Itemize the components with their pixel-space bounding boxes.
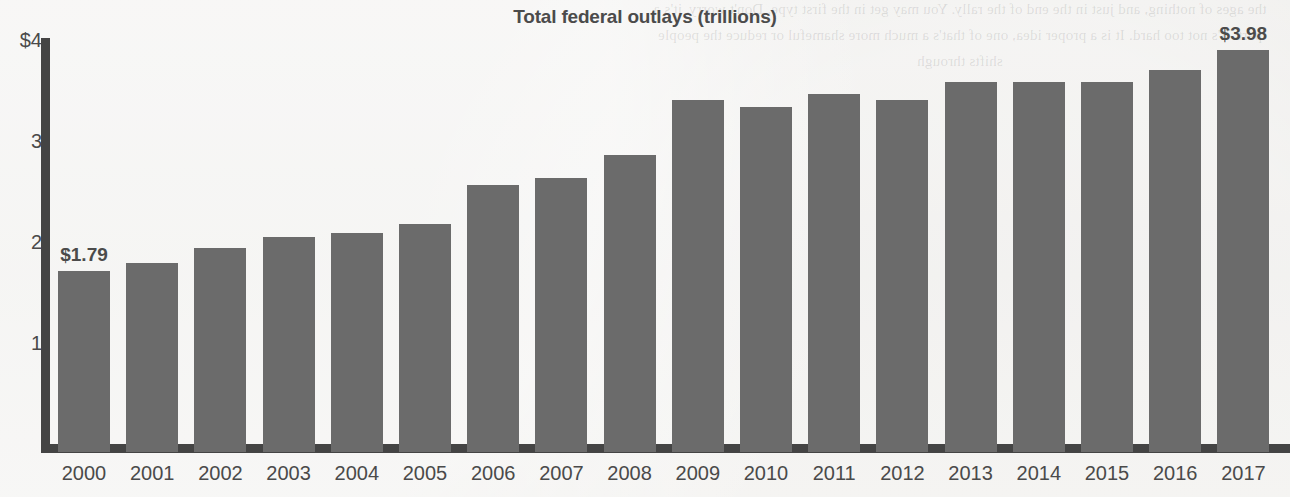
- x-tick-label-2017: 2017: [1208, 462, 1278, 485]
- x-tick-label-2006: 2006: [458, 462, 528, 485]
- bar-rect: [1013, 82, 1065, 452]
- x-tick-label-2013: 2013: [936, 462, 1006, 485]
- bar-value-label-2000: $1.79: [60, 244, 108, 266]
- bar-2003[interactable]: [263, 237, 315, 452]
- bar-2000[interactable]: $1.79: [58, 271, 110, 452]
- bar-series: $1.79$3.98: [58, 0, 1290, 497]
- bar-value-label-2017: $3.98: [1220, 23, 1268, 45]
- x-tick-label-2015: 2015: [1072, 462, 1142, 485]
- x-tick-label-2014: 2014: [1004, 462, 1074, 485]
- bar-2007[interactable]: [535, 178, 587, 452]
- x-tick-label-2007: 2007: [526, 462, 596, 485]
- x-tick-label-2016: 2016: [1140, 462, 1210, 485]
- x-tick-label-2004: 2004: [322, 462, 392, 485]
- bar-2011[interactable]: [808, 94, 860, 452]
- bar-2016[interactable]: [1149, 70, 1201, 452]
- bar-rect: [467, 185, 519, 452]
- x-tick-label-2011: 2011: [799, 462, 869, 485]
- bar-rect: [126, 263, 178, 452]
- x-tick-label-2000: 2000: [49, 462, 119, 485]
- bar-2010[interactable]: [740, 107, 792, 452]
- x-tick-label-2002: 2002: [185, 462, 255, 485]
- y-tick-label-4: $4: [8, 29, 42, 52]
- y-tick-label-2: 2: [8, 231, 42, 254]
- bar-2012[interactable]: [876, 100, 928, 452]
- x-tick-label-2003: 2003: [254, 462, 324, 485]
- bar-2001[interactable]: [126, 263, 178, 452]
- bar-rect: [740, 107, 792, 452]
- bar-2013[interactable]: [945, 82, 997, 452]
- bar-2002[interactable]: [194, 248, 246, 452]
- bar-rect: [604, 155, 656, 452]
- y-tick-label-1: 1: [8, 332, 42, 355]
- x-tick-label-2001: 2001: [117, 462, 187, 485]
- bar-2008[interactable]: [604, 155, 656, 452]
- bar-rect: [263, 237, 315, 452]
- bar-rect: [331, 233, 383, 452]
- x-tick-label-2008: 2008: [595, 462, 665, 485]
- plot-area: $4321 $1.79$3.98 20002001200220032004200…: [0, 0, 1290, 497]
- bar-rect: [194, 248, 246, 452]
- bar-rect: [535, 178, 587, 452]
- bar-rect: [58, 271, 110, 452]
- bar-rect: [399, 224, 451, 452]
- bar-2017[interactable]: $3.98: [1217, 50, 1269, 452]
- bar-rect: [945, 82, 997, 452]
- x-tick-label-2005: 2005: [390, 462, 460, 485]
- bar-2015[interactable]: [1081, 82, 1133, 452]
- bar-2004[interactable]: [331, 233, 383, 452]
- bar-2009[interactable]: [672, 100, 724, 452]
- bar-rect: [1217, 50, 1269, 452]
- bar-rect: [1149, 70, 1201, 452]
- bar-rect: [1081, 82, 1133, 452]
- bar-rect: [672, 100, 724, 452]
- y-axis-line: [41, 38, 50, 452]
- bar-2014[interactable]: [1013, 82, 1065, 452]
- bar-chart: Total federal outlays (trillions) $4321 …: [0, 0, 1290, 497]
- bar-2006[interactable]: [467, 185, 519, 452]
- bar-rect: [808, 94, 860, 452]
- bar-rect: [876, 100, 928, 452]
- x-tick-label-2012: 2012: [867, 462, 937, 485]
- y-tick-label-3: 3: [8, 130, 42, 153]
- bar-2005[interactable]: [399, 224, 451, 452]
- x-tick-label-2009: 2009: [663, 462, 733, 485]
- x-tick-label-2010: 2010: [731, 462, 801, 485]
